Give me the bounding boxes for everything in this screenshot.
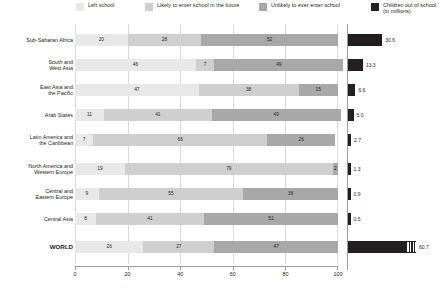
stacked-bar-plot: 2028524674947381511414976626197929553684… xyxy=(75,24,338,264)
x-axis-tick xyxy=(180,266,181,270)
bar-segment[interactable]: 52 xyxy=(201,34,338,46)
bar-segment[interactable]: 46 xyxy=(75,59,196,71)
bar-segment[interactable]: 66 xyxy=(93,134,267,146)
bar-segment-value: 2 xyxy=(334,167,337,172)
x-axis-tick-label: 20 xyxy=(125,271,131,277)
bar-segment[interactable]: 26 xyxy=(75,241,143,253)
category-label-line: West Asia xyxy=(1,65,73,71)
legend-label: Children out of school (in millions) xyxy=(383,2,439,14)
bar-row[interactable]: 76626 xyxy=(75,134,338,146)
bar-segment-value: 15 xyxy=(316,88,321,93)
category-label-line: the Caribbean xyxy=(1,140,73,146)
x-axis-tick-label: 100 xyxy=(334,271,343,277)
category-label: Latin America andthe Caribbean xyxy=(1,134,73,147)
bar-segment-value: 47 xyxy=(274,245,279,250)
out-of-school-bar[interactable] xyxy=(348,134,351,146)
out-of-school-value: 5.0 xyxy=(357,112,364,118)
bar-segment-value: 28 xyxy=(162,38,167,43)
out-of-school-bar[interactable] xyxy=(348,59,363,71)
out-of-school-bar[interactable] xyxy=(348,109,354,121)
out-of-school-row[interactable]: 30.6 xyxy=(348,34,436,46)
out-of-school-value: 2.7 xyxy=(354,137,361,143)
bar-segment[interactable]: 79 xyxy=(125,163,333,175)
bar-segment[interactable]: 36 xyxy=(243,188,338,200)
bar-segment[interactable]: 19 xyxy=(75,163,125,175)
category-label: East Asia andthe Pacific xyxy=(1,84,73,97)
out-of-school-value: 13.3 xyxy=(366,62,376,68)
bar-segment[interactable]: 38 xyxy=(199,84,299,96)
bar-segment[interactable]: 11 xyxy=(75,109,104,121)
bar-segment[interactable]: 49 xyxy=(212,109,341,121)
bar-row[interactable]: 46749 xyxy=(75,59,338,71)
bar-segment[interactable]: 55 xyxy=(99,188,244,200)
bar-segment[interactable]: 41 xyxy=(96,213,204,225)
x-axis-tick-label: 60 xyxy=(230,271,236,277)
bar-segment[interactable]: 41 xyxy=(104,109,212,121)
bar-row[interactable]: 262747 xyxy=(75,241,338,253)
x-axis-tick-label: 0 xyxy=(74,271,77,277)
bar-segment-value: 11 xyxy=(87,113,92,118)
out-of-school-bar[interactable] xyxy=(348,34,382,46)
legend-swatch-icon xyxy=(371,3,379,11)
out-of-school-bar[interactable] xyxy=(348,163,351,175)
category-label: North America andWestern Europe xyxy=(1,163,73,176)
bar-segment-value: 38 xyxy=(246,88,251,93)
bar-segment[interactable]: 47 xyxy=(214,241,338,253)
bar-segment[interactable]: 26 xyxy=(267,134,335,146)
legend-label: Left school xyxy=(88,2,115,8)
out-of-school-row[interactable]: 1.3 xyxy=(348,163,436,175)
out-of-school-bar[interactable] xyxy=(348,188,351,200)
out-of-school-row[interactable]: 2.7 xyxy=(348,134,436,146)
bar-row[interactable]: 95536 xyxy=(75,188,338,200)
bar-segment-value: 41 xyxy=(155,113,160,118)
out-of-school-bar[interactable] xyxy=(348,213,351,225)
bar-segment[interactable]: 15 xyxy=(299,84,338,96)
out-of-school-value: 0.9 xyxy=(354,191,361,197)
out-of-school-bar[interactable] xyxy=(348,84,355,96)
bar-segment[interactable]: 51 xyxy=(204,213,338,225)
out-of-school-row[interactable]: 13.3 xyxy=(348,59,436,71)
legend-item-unlikely-to-enter: Unlikely to ever enter school xyxy=(259,2,340,11)
out-of-school-row[interactable]: 5.0 xyxy=(348,109,436,121)
out-of-school-value: 1.3 xyxy=(354,166,361,172)
bar-segment-value: 26 xyxy=(299,138,304,143)
legend-swatch-icon xyxy=(145,3,153,11)
bar-segment-value: 7 xyxy=(83,138,86,143)
out-of-school-row[interactable]: 60.7 xyxy=(348,241,436,253)
x-axis-tick xyxy=(75,266,76,270)
bar-segment[interactable]: 47 xyxy=(75,84,199,96)
bar-segment[interactable]: 20 xyxy=(75,34,128,46)
legend-item-likely-to-enter: Likely to enter school in the future xyxy=(145,2,239,11)
out-of-school-row[interactable]: 6.6 xyxy=(348,84,436,96)
out-of-school-row[interactable]: 0.5 xyxy=(348,213,436,225)
bar-row[interactable]: 19792 xyxy=(75,163,338,175)
category-label-line: Sub-Saharan Africa xyxy=(1,37,73,43)
bar-segment[interactable]: 9 xyxy=(75,188,99,200)
legend-label: Unlikely to ever enter school xyxy=(271,2,340,8)
bar-segment-value: 47 xyxy=(134,88,139,93)
category-label-line: Arab States xyxy=(1,112,73,118)
bar-segment[interactable]: 7 xyxy=(75,134,93,146)
bar-segment[interactable]: 27 xyxy=(143,241,214,253)
x-axis-tick xyxy=(128,266,129,270)
category-label-line: WORLD xyxy=(1,244,73,250)
bar-segment[interactable]: 7 xyxy=(196,59,214,71)
bar-segment[interactable]: 8 xyxy=(75,213,96,225)
bar-segment[interactable]: 49 xyxy=(214,59,343,71)
out-of-school-bar-hatch xyxy=(406,241,416,253)
children-out-of-school-panel: 30.613.36.65.02.71.30.90.560.7 xyxy=(347,24,436,270)
bar-segment-value: 20 xyxy=(99,38,104,43)
out-of-school-row[interactable]: 0.9 xyxy=(348,188,436,200)
bar-row[interactable]: 202852 xyxy=(75,34,338,46)
bar-row[interactable]: 114149 xyxy=(75,109,338,121)
bar-segment-value: 79 xyxy=(226,167,231,172)
bar-segment-value: 49 xyxy=(276,63,281,68)
bar-segment[interactable]: 2 xyxy=(333,163,338,175)
legend-item-children-out-of-school: Children out of school (in millions) xyxy=(371,2,439,14)
legend-swatch-icon xyxy=(76,3,84,11)
bar-row[interactable]: 84151 xyxy=(75,213,338,225)
bar-segment[interactable]: 28 xyxy=(128,34,202,46)
bar-row[interactable]: 473815 xyxy=(75,84,338,96)
bar-segment-value: 41 xyxy=(147,217,152,222)
